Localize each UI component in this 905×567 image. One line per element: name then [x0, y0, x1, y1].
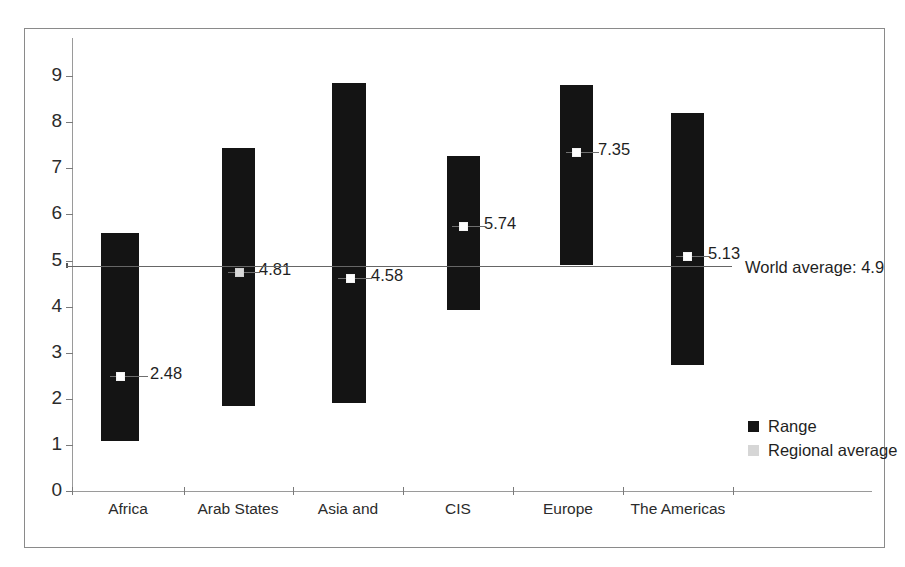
x-tick-4 — [513, 487, 514, 495]
world-average-label: World average: 4.9 — [745, 258, 884, 277]
chart-figure: 9 8 7 6 5 4 3 2 1 0 Africa Arab States A… — [0, 0, 905, 567]
x-axis-label-asia: Asia and — [292, 500, 404, 518]
regional-average-marker-arab-states — [235, 268, 244, 277]
value-label-americas: 5.13 — [708, 244, 740, 263]
y-tick-5 — [66, 261, 73, 262]
y-axis-label-3: 3 — [40, 341, 62, 363]
world-average-line — [66, 266, 732, 267]
x-tick-2 — [293, 487, 294, 495]
legend-swatch-range-icon — [748, 421, 759, 432]
x-axis-line — [72, 491, 872, 492]
regional-average-marker-europe — [572, 148, 581, 157]
marker-leader-arab-states — [228, 272, 260, 273]
x-tick-6 — [733, 487, 734, 495]
legend-item-regional-average: Regional average — [748, 438, 897, 462]
regional-average-marker-americas — [683, 252, 692, 261]
y-tick-8 — [66, 122, 73, 123]
y-axis-label-9: 9 — [40, 64, 62, 86]
y-axis-label-6: 6 — [40, 202, 62, 224]
legend-label-regional-average: Regional average — [768, 441, 897, 460]
legend-item-range: Range — [748, 414, 897, 438]
range-bar-africa — [101, 233, 139, 441]
legend-label-range: Range — [768, 417, 817, 436]
marker-leader-cis — [452, 226, 485, 227]
legend-swatch-regional-average-icon — [748, 445, 759, 456]
y-axis-label-4: 4 — [40, 295, 62, 317]
regional-average-marker-asia — [346, 274, 355, 283]
range-bar-europe — [560, 85, 593, 265]
y-axis-label-1: 1 — [40, 433, 62, 455]
y-axis-label-2: 2 — [40, 387, 62, 409]
y-axis-label-8: 8 — [40, 110, 62, 132]
y-tick-1 — [66, 445, 73, 446]
x-axis-label-cis: CIS — [402, 500, 514, 518]
marker-leader-europe — [566, 152, 599, 153]
value-label-africa: 2.48 — [150, 364, 182, 383]
chart-legend: Range Regional average — [748, 414, 897, 462]
y-axis-line — [72, 38, 73, 492]
y-axis-label-5: 5 — [40, 249, 62, 271]
marker-leader-asia — [338, 278, 372, 279]
y-tick-3 — [66, 353, 73, 354]
x-tick-5 — [623, 487, 624, 495]
x-axis-label-europe: Europe — [512, 500, 624, 518]
regional-average-marker-africa — [116, 372, 125, 381]
x-axis-label-arab-states: Arab States — [182, 500, 294, 518]
y-axis-label-7: 7 — [40, 156, 62, 178]
x-axis-label-africa: Africa — [72, 500, 184, 518]
y-tick-7 — [66, 168, 73, 169]
regional-average-marker-cis — [459, 222, 468, 231]
value-label-arab-states: 4.81 — [259, 260, 291, 279]
x-tick-3 — [403, 487, 404, 495]
x-axis-label-americas: The Americas — [622, 500, 734, 518]
y-tick-6 — [66, 214, 73, 215]
marker-leader-americas — [676, 256, 709, 257]
range-bar-americas — [671, 113, 704, 365]
y-tick-4 — [66, 307, 73, 308]
y-tick-9 — [66, 76, 73, 77]
range-bar-cis — [447, 156, 480, 310]
x-tick-0 — [72, 487, 73, 495]
y-axis-label-0: 0 — [40, 479, 62, 501]
value-label-asia: 4.58 — [371, 266, 403, 285]
value-label-europe: 7.35 — [598, 140, 630, 159]
y-tick-2 — [66, 399, 73, 400]
range-bar-asia — [332, 83, 366, 403]
x-tick-1 — [184, 487, 185, 495]
value-label-cis: 5.74 — [484, 214, 516, 233]
range-bar-arab-states — [222, 148, 255, 406]
